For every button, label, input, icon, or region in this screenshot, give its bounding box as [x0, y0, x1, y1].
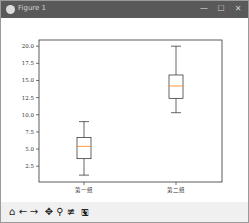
close-button[interactable]: ✕: [231, 3, 245, 15]
navigation-toolbar: ⌂ ← → ✥ ⚲ ≢ 🖫: [1, 202, 248, 222]
y-tick-label: 17.5: [22, 60, 35, 66]
configure-subplots-icon[interactable]: ≢: [66, 206, 76, 218]
x-tick-label: 第一组: [75, 186, 93, 194]
y-tick-label: 10.0: [22, 112, 35, 118]
x-tick-label: 第二组: [167, 186, 185, 194]
box-plot: 2.55.07.510.012.515.017.520.0第一组第二组: [1, 18, 248, 202]
axes-frame: [39, 40, 222, 182]
plot-area: 2.55.07.510.012.515.017.520.0第一组第二组: [1, 18, 248, 202]
y-tick-label: 15.0: [22, 77, 35, 83]
maximize-button[interactable]: ☐: [214, 3, 228, 15]
y-tick-label: 20.0: [22, 43, 35, 49]
app-icon: [6, 5, 15, 14]
pan-icon[interactable]: ✥: [44, 206, 54, 218]
minimize-button[interactable]: —: [197, 3, 211, 15]
figure-window: Figure 1 — ☐ ✕ 2.55.07.510.012.515.017.5…: [0, 0, 249, 223]
home-icon[interactable]: ⌂: [7, 206, 17, 218]
y-tick-label: 5.0: [25, 146, 34, 152]
save-icon[interactable]: 🖫: [80, 206, 90, 218]
forward-icon[interactable]: →: [29, 206, 39, 218]
y-tick-label: 12.5: [22, 95, 35, 101]
window-title: Figure 1: [18, 4, 46, 12]
y-tick-label: 7.5: [25, 129, 34, 135]
title-bar[interactable]: Figure 1 — ☐ ✕: [1, 1, 248, 18]
zoom-icon[interactable]: ⚲: [55, 206, 65, 218]
back-icon[interactable]: ←: [18, 206, 28, 218]
y-tick-label: 2.5: [25, 163, 34, 169]
